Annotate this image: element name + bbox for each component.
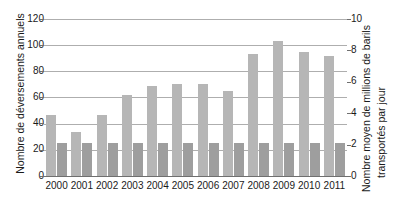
x-label-2011: 2011 bbox=[322, 180, 347, 192]
y-right-tick-10: 10 bbox=[351, 14, 373, 24]
bar-group-2001 bbox=[69, 19, 94, 176]
bar-groups bbox=[44, 19, 347, 176]
bar-barrels-2010 bbox=[310, 143, 320, 176]
x-label-2001: 2001 bbox=[69, 180, 94, 192]
y-right-tick-6: 6 bbox=[351, 76, 373, 86]
x-label-2008: 2008 bbox=[246, 180, 271, 192]
bar-chart: Nombre de déversements annuels Nombre mo… bbox=[0, 0, 393, 210]
x-label-2002: 2002 bbox=[95, 180, 120, 192]
bar-spills-2001 bbox=[71, 132, 81, 176]
bar-barrels-2011 bbox=[335, 143, 345, 176]
bar-group-2000 bbox=[44, 19, 69, 176]
bar-spills-2000 bbox=[46, 115, 56, 176]
bar-group-2007 bbox=[221, 19, 246, 176]
y-right-tick-2: 2 bbox=[351, 139, 373, 149]
tick-mark-right-2 bbox=[347, 145, 351, 146]
bar-barrels-2006 bbox=[209, 143, 219, 176]
bar-spills-2003 bbox=[122, 95, 132, 176]
plot-area bbox=[44, 19, 347, 176]
y-right-tick-0: 0 bbox=[351, 171, 373, 181]
bar-spills-2008 bbox=[248, 54, 258, 176]
tick-mark-right-6 bbox=[347, 82, 351, 83]
bar-barrels-2000 bbox=[57, 143, 67, 176]
x-axis-labels: 2000200120022003200420052006200720082009… bbox=[44, 180, 347, 192]
x-label-2004: 2004 bbox=[145, 180, 170, 192]
bar-barrels-2007 bbox=[234, 143, 244, 176]
x-label-2010: 2010 bbox=[297, 180, 322, 192]
x-label-2006: 2006 bbox=[196, 180, 221, 192]
bar-spills-2010 bbox=[299, 52, 309, 176]
bar-barrels-2009 bbox=[284, 143, 294, 176]
tick-mark-right-4 bbox=[347, 113, 351, 114]
bar-group-2002 bbox=[95, 19, 120, 176]
x-label-2009: 2009 bbox=[271, 180, 296, 192]
bar-spills-2011 bbox=[324, 56, 334, 176]
x-label-2005: 2005 bbox=[170, 180, 195, 192]
bar-barrels-2001 bbox=[82, 143, 92, 176]
tick-mark-right-0 bbox=[347, 176, 351, 177]
bar-group-2005 bbox=[170, 19, 195, 176]
bar-barrels-2003 bbox=[133, 143, 143, 176]
x-label-2003: 2003 bbox=[120, 180, 145, 192]
y-right-tick-8: 8 bbox=[351, 45, 373, 55]
bar-group-2011 bbox=[322, 19, 347, 176]
bar-barrels-2004 bbox=[158, 143, 168, 176]
x-label-2007: 2007 bbox=[221, 180, 246, 192]
tick-mark-right-8 bbox=[347, 50, 351, 51]
x-axis-line bbox=[44, 176, 347, 177]
bar-spills-2009 bbox=[273, 41, 283, 176]
y-right-tick-4: 4 bbox=[351, 108, 373, 118]
bar-group-2008 bbox=[246, 19, 271, 176]
bar-spills-2002 bbox=[97, 115, 107, 176]
bar-spills-2004 bbox=[147, 86, 157, 176]
bar-group-2003 bbox=[120, 19, 145, 176]
bar-group-2010 bbox=[297, 19, 322, 176]
bar-barrels-2005 bbox=[183, 143, 193, 176]
bar-barrels-2002 bbox=[108, 143, 118, 176]
bar-group-2006 bbox=[196, 19, 221, 176]
bar-barrels-2008 bbox=[259, 143, 269, 176]
y-left-tick-20: 20 bbox=[20, 144, 44, 154]
bar-group-2009 bbox=[271, 19, 296, 176]
bar-spills-2005 bbox=[172, 84, 182, 176]
bar-spills-2007 bbox=[223, 91, 233, 176]
bar-group-2004 bbox=[145, 19, 170, 176]
y-axis-right-title-line2: transportés par jour bbox=[375, 87, 387, 178]
x-label-2000: 2000 bbox=[44, 180, 69, 192]
tick-mark-right-10 bbox=[347, 19, 351, 20]
bar-spills-2006 bbox=[198, 84, 208, 176]
